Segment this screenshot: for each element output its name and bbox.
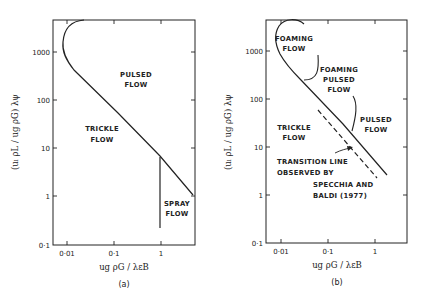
x-tick-label: 1 [373, 248, 377, 256]
y-tick-label: 10 [254, 144, 263, 152]
figure: 1000 100 10 1 0·1 0·01 0·1 1 PULSED FLOW… [0, 0, 429, 304]
x-tick-label: 0·1 [322, 248, 333, 256]
region-label-foaming: FOAMING [275, 35, 313, 43]
y-tick-label: 1000 [32, 49, 50, 57]
panel-a: 1000 100 10 1 0·1 0·01 0·1 1 PULSED FLOW… [10, 20, 195, 289]
y-tick-label: 100 [250, 96, 263, 104]
region-label-trickle: TRICKLE [277, 124, 311, 132]
panel-caption: (b) [331, 278, 342, 287]
y-axis-label: (uₗ ρL / ug ρG) λψ [10, 94, 20, 170]
foaming-pulsed-boundary [304, 55, 318, 80]
region-label-pulsed: FLOW [364, 126, 387, 134]
pulsed-boundary [352, 96, 356, 131]
region-label-trickle: FLOW [90, 136, 113, 144]
region-label-foaming: FLOW [282, 45, 305, 53]
y-tick-label: 10 [41, 145, 50, 153]
annotation-transition: OBSERVED BY [277, 169, 334, 177]
region-label-spray: FLOW [165, 210, 188, 218]
x-axis-label: ug ρG / λεB [99, 262, 149, 272]
region-label-foaming-pulsed: FLOW [327, 86, 350, 94]
y-tick-label: 1000 [245, 48, 263, 56]
x-tick-label: 0·1 [108, 250, 119, 258]
y-axis-label: (uₗ ρL / ug ρG) λψ [223, 94, 233, 170]
y-tick-label: 100 [37, 97, 50, 105]
regime-boundary-curve [63, 20, 193, 195]
annotation-citation: SPECCHIA AND [313, 181, 374, 189]
panel-b: 1000 100 10 1 0·1 0·01 0·1 1 FOAMING FLO… [223, 20, 407, 287]
y-tick-label: 0·1 [39, 242, 50, 250]
region-label-foaming-pulsed: FOAMING [320, 66, 358, 74]
y-tick-label: 1 [259, 192, 263, 200]
panel-caption: (a) [118, 280, 129, 289]
x-tick-label: 0·01 [273, 248, 289, 256]
regime-boundary-curve [276, 20, 387, 175]
x-axis-label: ug ρG / λεB [312, 260, 362, 270]
y-tick-label: 1 [46, 193, 50, 201]
region-label-trickle: TRICKLE [85, 125, 119, 133]
x-tick-label: 0·01 [59, 250, 75, 258]
region-label-foaming-pulsed: PULSED [323, 76, 355, 84]
y-tick-label: 0·1 [252, 240, 263, 248]
region-label-pulsed: PULSED [360, 116, 392, 124]
region-label-spray: SPRAY [164, 200, 190, 208]
x-tick-label: 1 [159, 250, 163, 258]
annotation-transition: TRANSITION LINE [277, 158, 348, 166]
annotation-citation: BALDI (1977) [313, 192, 367, 200]
region-label-pulsed: PULSED [120, 71, 152, 79]
region-label-trickle: FLOW [282, 134, 305, 142]
region-label-pulsed: FLOW [124, 81, 147, 89]
